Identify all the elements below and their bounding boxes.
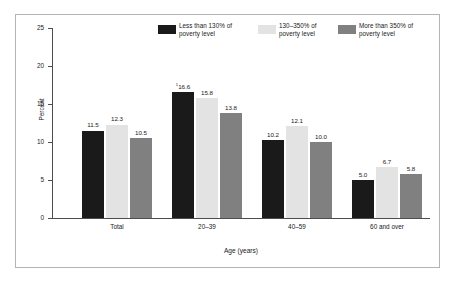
y-axis-tick xyxy=(48,218,52,219)
y-axis-line xyxy=(52,28,53,218)
bar xyxy=(352,180,374,218)
bar xyxy=(400,174,422,218)
y-axis-tick xyxy=(48,66,52,67)
y-axis-tick-label: 5 xyxy=(26,177,44,183)
bar xyxy=(82,131,104,218)
bar-value-label: 6.7 xyxy=(373,159,401,165)
y-axis-tick xyxy=(48,142,52,143)
bar xyxy=(106,125,128,218)
y-axis-tick xyxy=(48,28,52,29)
bar xyxy=(196,98,218,218)
bar-group: 11.512.310.5Total xyxy=(82,28,152,218)
bar xyxy=(130,138,152,218)
bar-group: 10.212.110.040–59 xyxy=(262,28,332,218)
bar-value-label: 10.2 xyxy=(259,132,287,138)
bar-value-label: 12.3 xyxy=(103,116,131,122)
footnote-marker: 1 xyxy=(176,82,178,87)
bar-value-label: 13.8 xyxy=(217,105,245,111)
bar xyxy=(262,140,284,218)
bar-value-label: 12.1 xyxy=(283,118,311,124)
bar xyxy=(376,167,398,218)
bar-value-label: 5.0 xyxy=(349,172,377,178)
bar xyxy=(310,142,332,218)
bar-value-label: 11.5 xyxy=(79,122,107,128)
y-axis-tick-label: 20 xyxy=(26,63,44,69)
bar-value-label: 10.0 xyxy=(307,134,335,140)
y-axis-tick-label: 0 xyxy=(26,215,44,221)
bar xyxy=(220,113,242,218)
x-axis-category-label: 40–59 xyxy=(247,224,347,230)
x-axis-label: Age (years) xyxy=(52,247,430,254)
bar xyxy=(286,126,308,218)
plot-area: 0510152025 Percent 11.512.310.5Total116.… xyxy=(52,28,430,218)
bar xyxy=(172,92,194,218)
bar-group: 5.06.75.860 and over xyxy=(352,28,422,218)
bar-value-label: 15.8 xyxy=(193,90,221,96)
y-axis-tick xyxy=(48,180,52,181)
y-axis-label: Percent xyxy=(38,87,45,133)
y-axis-tick-label: 10 xyxy=(26,139,44,145)
x-axis-category-label: 20–39 xyxy=(157,224,257,230)
y-axis-tick-label: 25 xyxy=(26,25,44,31)
y-axis-tick xyxy=(48,104,52,105)
x-axis-line xyxy=(52,218,430,219)
bar-group: 116.615.813.820–39 xyxy=(172,28,242,218)
chart-figure: Less than 130% of poverty level 130–350%… xyxy=(0,0,455,282)
bar-value-label: 5.8 xyxy=(397,166,425,172)
x-axis-category-label: 60 and over xyxy=(337,224,437,230)
x-axis-category-label: Total xyxy=(67,224,167,230)
bar-value-label: 10.5 xyxy=(127,130,155,136)
